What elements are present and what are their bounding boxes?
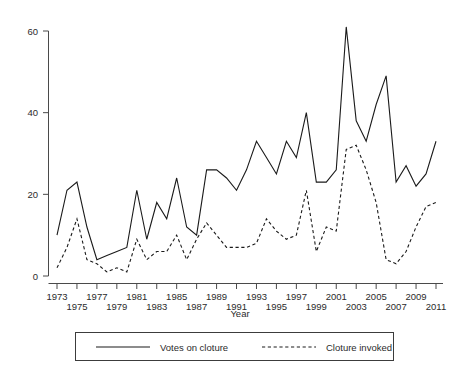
y-tick-label-40: 40 (27, 107, 38, 118)
x-axis-title: Year (230, 308, 249, 319)
x-tick-label-2007: 2007 (386, 301, 407, 312)
x-tick-label-1985: 1985 (166, 291, 187, 302)
legend-label-votes-on-cloture: Votes on cloture (160, 342, 228, 353)
x-tick-label-2011: 2011 (426, 301, 446, 312)
x-tick-label-1977: 1977 (86, 291, 107, 302)
x-tick-label-1993: 1993 (246, 291, 267, 302)
x-tick-label-1981: 1981 (126, 291, 147, 302)
x-tick-label-2005: 2005 (366, 291, 387, 302)
x-tick-label-1975: 1975 (66, 301, 87, 312)
x-tick-label-1997: 1997 (286, 291, 307, 302)
x-tick-label-1995: 1995 (266, 301, 287, 312)
x-tick-label-1999: 1999 (306, 301, 327, 312)
legend-label-cloture-invoked: Cloture invoked (326, 342, 392, 353)
y-tick-label-20: 20 (27, 189, 38, 200)
x-tick-label-2001: 2001 (326, 291, 347, 302)
y-tick-label-0: 0 (33, 271, 38, 282)
x-tick-label-1973: 1973 (46, 291, 67, 302)
x-tick-label-1989: 1989 (206, 291, 227, 302)
x-tick-label-1987: 1987 (186, 301, 207, 312)
chart-figure: 0204060 19731975197719791981198319851987… (0, 0, 466, 376)
x-tick-label-1979: 1979 (106, 301, 127, 312)
line-chart-canvas: 0204060 19731975197719791981198319851987… (0, 0, 466, 376)
x-tick-label-2003: 2003 (346, 301, 367, 312)
x-tick-label-2009: 2009 (405, 291, 426, 302)
x-tick-label-1983: 1983 (146, 301, 167, 312)
y-tick-label-60: 60 (27, 26, 38, 37)
